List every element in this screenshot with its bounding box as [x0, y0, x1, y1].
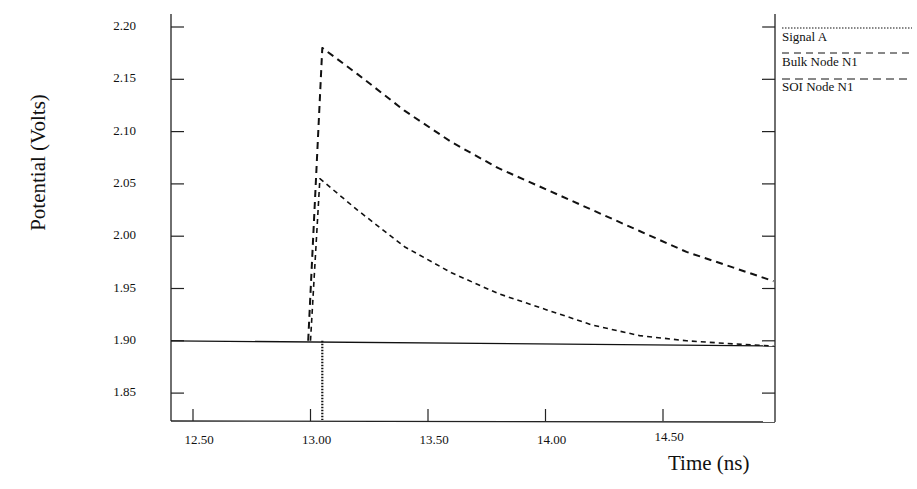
legend-item-bulk-node: Bulk Node N1	[782, 54, 912, 70]
axis-ticks	[171, 27, 775, 421]
legend-item-signal-a: Signal A	[782, 29, 912, 45]
series-baseline	[171, 341, 775, 346]
series-group	[171, 48, 775, 420]
x-tick-label: 14.50	[639, 429, 699, 445]
series-soi-node-n1	[311, 179, 774, 346]
plot-frame	[171, 14, 775, 422]
legend-item-soi-node: SOI Node N1	[782, 79, 912, 95]
y-tick-label: 1.90	[96, 332, 136, 348]
y-tick-label: 1.95	[96, 280, 136, 296]
x-tick-label: 13.50	[404, 432, 464, 448]
x-axis-title: Time (ns)	[668, 451, 750, 476]
legend-label: Signal A	[782, 29, 827, 44]
y-tick-label: 2.10	[96, 123, 136, 139]
y-tick-label: 2.20	[96, 18, 136, 34]
y-tick-label: 2.00	[96, 227, 136, 243]
y-axis-title: Potential (Volts)	[26, 33, 51, 293]
y-tick-label: 2.15	[96, 70, 136, 86]
y-tick-label: 2.05	[96, 175, 136, 191]
y-tick-label: 1.85	[96, 384, 136, 400]
legend-label: Bulk Node N1	[782, 54, 858, 69]
x-tick-label: 13.00	[287, 432, 347, 448]
chart-canvas	[0, 0, 917, 489]
x-axis-bottom	[171, 421, 775, 422]
series-bulk-node-n1	[308, 48, 773, 341]
x-tick-label: 12.50	[169, 432, 229, 448]
y-axis-title-wrap: Potential (Volts)	[18, 0, 58, 330]
x-tick-label: 14.00	[522, 432, 582, 448]
legend-label: SOI Node N1	[782, 79, 854, 94]
